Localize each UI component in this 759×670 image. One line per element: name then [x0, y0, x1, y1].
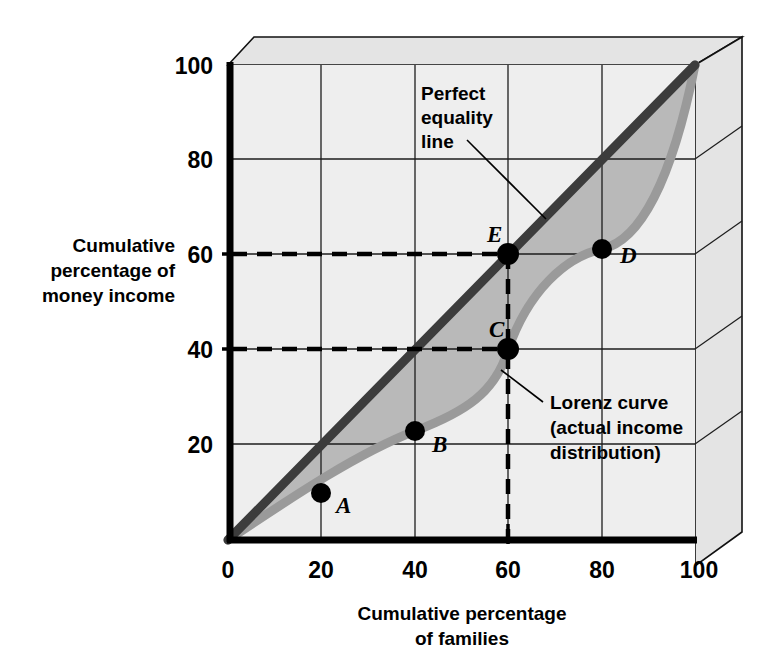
y-tick-label-80: 80: [187, 147, 213, 173]
x-tick-label-0: 0: [222, 557, 235, 583]
x-tick-label-40: 40: [402, 557, 428, 583]
x-tick-label-60: 60: [495, 557, 521, 583]
y-tick-label-40: 40: [187, 337, 213, 363]
y-tick-label-100: 100: [175, 53, 213, 79]
point-label-e: E: [486, 222, 502, 247]
x-tick-label-100: 100: [680, 557, 718, 583]
point-label-a: A: [334, 493, 351, 518]
point-label-c: C: [489, 317, 505, 342]
lorenz-label-line1: Lorenz curve: [550, 392, 668, 413]
y-axis-title-line1: Cumulative: [73, 235, 175, 256]
point-label-d: D: [619, 243, 637, 268]
data-point-b[interactable]: [405, 421, 425, 441]
box-bottom-face: [228, 540, 695, 566]
x-axis-title-line1: Cumulative percentage: [357, 603, 566, 624]
lorenz-label-line3: distribution): [550, 442, 661, 463]
lorenz-label-line2: (actual income: [550, 417, 683, 438]
lorenz-curve-figure: A B C D E Perfect equality line Lorenz c…: [0, 0, 759, 670]
box-top-face: [228, 37, 742, 65]
y-axis-title-line3: money income: [42, 285, 175, 306]
chart-canvas: A B C D E Perfect equality line Lorenz c…: [0, 0, 759, 670]
y-tick-label-20: 20: [187, 432, 213, 458]
perfect-equality-label-line3: line: [421, 131, 454, 152]
box-right-face: [695, 37, 742, 566]
perfect-equality-label-line2: equality: [421, 107, 493, 128]
perfect-equality-label-line1: Perfect: [421, 83, 486, 104]
point-label-b: B: [431, 432, 447, 457]
x-tick-label-20: 20: [308, 557, 334, 583]
y-axis-title-line2: percentage of: [50, 260, 175, 281]
x-tick-label-80: 80: [589, 557, 615, 583]
data-point-a[interactable]: [311, 483, 331, 503]
data-point-d[interactable]: [592, 239, 612, 259]
y-tick-label-60: 60: [187, 242, 213, 268]
x-axis-title-line2: of families: [415, 628, 509, 649]
